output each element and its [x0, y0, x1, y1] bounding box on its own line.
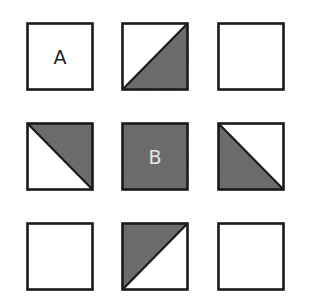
grid-cell-r2-c0: [26, 222, 94, 291]
grid-cell-r0-c1: [121, 22, 189, 91]
grid-cell-r2-c2: [217, 222, 285, 291]
cell-label-a: A: [26, 22, 94, 91]
grid-cell-r2-c1: [121, 222, 189, 291]
shaded-square-shape: [121, 222, 189, 291]
empty-square-shape: [217, 22, 285, 91]
empty-square-shape: [217, 222, 285, 291]
cell-label-b: B: [121, 122, 189, 191]
shaded-square-shape: [217, 122, 285, 191]
grid-cell-r0-c2: [217, 22, 285, 91]
grid-cell-r1-c2: [217, 122, 285, 191]
shaded-square-shape: [121, 22, 189, 91]
shaded-square-shape: [26, 122, 94, 191]
grid-cell-r0-c0: A: [26, 22, 94, 91]
grid-cell-r1-c1: B: [121, 122, 189, 191]
grid-cell-r1-c0: [26, 122, 94, 191]
empty-square-shape: [26, 222, 94, 291]
